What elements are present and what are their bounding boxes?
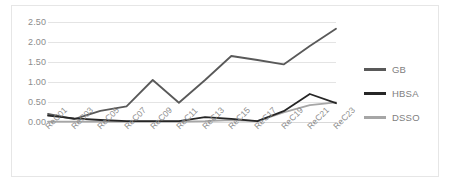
y-axis-tick-label: 1.00 [14,78,46,87]
y-axis-tick-label: 2.00 [14,38,46,47]
y-axis-tick-label: 0.00 [14,118,46,127]
legend-item-dsso[interactable]: DSSO [364,105,444,129]
y-axis-tick-label: 1.50 [14,58,46,67]
legend-label: HBSA [392,88,419,99]
legend-swatch-icon [364,116,386,119]
x-axis-tick-labels: ReC01ReC03ReC05ReC07ReC09ReC11ReC13ReC15… [48,124,348,174]
legend-item-hbsa[interactable]: HBSA [364,81,444,105]
legend-swatch-icon [364,68,386,71]
y-axis-tick-label: 2.50 [14,18,46,27]
legend-label: GB [392,64,406,75]
legend-label: DSSO [392,112,420,123]
legend-swatch-icon [364,92,386,95]
y-axis-tick-labels: 0.000.501.001.502.002.50 [14,0,46,188]
chart-legend: GBHBSADSSO [364,57,444,129]
chart-container: Errbest 0.000.501.001.502.002.50 ReC01Re… [0,0,453,188]
legend-item-gb[interactable]: GB [364,57,444,81]
y-axis-tick-label: 0.50 [14,98,46,107]
